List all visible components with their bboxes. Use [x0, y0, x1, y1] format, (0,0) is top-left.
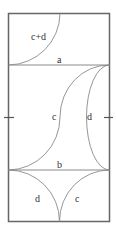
label-d-bottom: d: [35, 193, 40, 204]
label-c-bottom: c: [75, 193, 80, 204]
label-c-plus-d: c+d: [31, 31, 46, 42]
arc-d-bottom: [9, 170, 60, 222]
arc-c-middle: [9, 65, 110, 170]
label-d-middle: d: [87, 111, 92, 122]
label-c-middle: c: [52, 111, 57, 122]
label-b: b: [57, 159, 62, 170]
label-a: a: [57, 54, 62, 65]
outer-frame: [9, 14, 110, 222]
geometric-diagram: c+d a c d b d c: [0, 0, 116, 233]
arc-c-bottom: [60, 170, 110, 222]
